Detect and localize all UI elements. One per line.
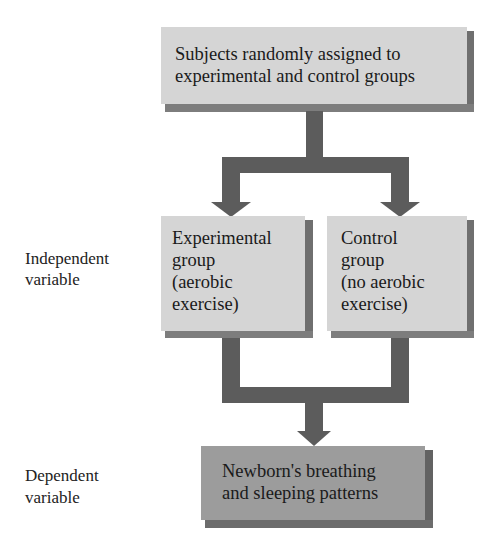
node-control-group: Control group (no aerobic exercise): [327, 216, 474, 338]
node-random-assignment: Subjects randomly assigned to experiment…: [161, 27, 474, 112]
node-newborn-outcome: Newborn's breathing and sleeping pattern…: [201, 446, 433, 528]
box-shadow: [467, 220, 474, 338]
node-text-line: Control: [341, 228, 398, 249]
label-independent-variable: Independent: [25, 248, 109, 269]
node-text-line: exercise): [172, 294, 239, 315]
node-text-line: group: [172, 250, 215, 271]
box-shadow: [205, 520, 433, 528]
connector-stem: [305, 387, 323, 433]
box-shadow: [305, 220, 313, 338]
node-text-line: experimental and control groups: [175, 66, 415, 87]
node-text-line: Newborn's breathing: [222, 461, 376, 482]
arrow-down-icon: [297, 431, 331, 447]
node-text-line: group: [341, 250, 384, 271]
connector-horizontal: [222, 157, 409, 173]
connector-leg-right: [391, 157, 409, 204]
node-text-line: exercise): [341, 294, 408, 315]
node-text-line: (no aerobic: [341, 272, 425, 293]
node-experimental-group: Experimental group (aerobic exercise): [161, 216, 313, 338]
box-shadow: [425, 450, 433, 528]
box-shadow: [331, 331, 474, 338]
label-dependent-variable: variable: [25, 487, 80, 508]
box-shadow: [467, 31, 474, 112]
node-text-line: (aerobic: [172, 272, 233, 293]
label-dependent-variable: Dependent: [25, 465, 99, 486]
node-text-line: Experimental: [172, 228, 272, 249]
label-independent-variable: variable: [25, 269, 80, 290]
node-text-line: Subjects randomly assigned to: [175, 44, 401, 65]
connector-leg-left: [222, 157, 240, 204]
box-shadow: [165, 331, 313, 338]
node-text-line: and sleeping patterns: [222, 483, 378, 504]
